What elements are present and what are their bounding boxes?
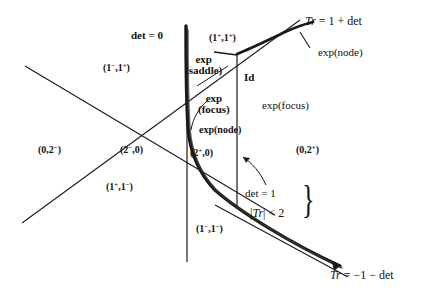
region-label-upper-left: (1−,1+) [103,63,130,74]
diagram-canvas [0,0,428,293]
exp-focus-right-label: exp(focus) [262,100,309,112]
lower-boundary-tr-symbol: Tr [330,268,341,282]
upper-boundary-equation: Tr = 1 + det [305,14,362,29]
region-bottom-center-mid: ,1 [208,223,216,234]
upper-boundary-tr-symbol: Tr [305,14,316,28]
abs-bar-close: | < 2 [263,206,284,220]
region-lower-left-mid: ,1 [118,181,126,192]
region-right-post: ) [316,144,319,155]
region-center-left-post: ) [140,144,143,155]
region-lower-left-post: ) [130,181,133,192]
lower-boundary-equation: Tr = −1 − det [330,268,394,283]
det-zero-label: det = 0 [131,30,163,42]
region-label-right: (0,2+) [296,145,319,156]
region-right-pre: (0,2 [296,144,312,155]
region-label-center-left: (2−,0) [120,145,143,156]
trace-bound-tr-symbol: Tr [252,206,263,220]
region-label-bottom-center: (1−,1−) [196,224,223,235]
region-left-pre: (0,2 [38,144,54,155]
region-center-right-post: ) [210,147,213,158]
region-bottom-center-post: ) [220,223,223,234]
region-left-post: ) [58,144,61,155]
region-upper-left-post: ) [127,62,130,73]
tr-upper-tick-mark [300,32,310,48]
region-label-lower-left: (1+,1−) [106,182,133,193]
trace-determinant-diagram: det = 0 Tr = 1 + det exp(node) (1+,1+) (… [0,0,428,293]
trace-bound-label: |Tr| < 2 [250,206,284,221]
region-center-right-mid: ,0 [202,147,210,158]
region-upper-middle-mid: ,1 [221,32,229,43]
region-label-upper-middle: (1+,1+) [209,33,236,44]
exp-saddle-line2: (saddle) [185,65,222,76]
upper-boundary-equation-rest: = 1 + det [316,14,362,28]
identity-point-label: Id [244,72,254,84]
region-label-left: (0,2−) [38,145,61,156]
region-upper-middle-post: ) [233,32,236,43]
thick-curve-right-branch [237,22,313,54]
exp-focus-label: exp (focus) [198,93,230,115]
exp-focus-line2: (focus) [198,104,230,115]
trace-bound-brace: } [302,180,314,220]
exp-node-center-label: exp(node) [199,125,241,136]
region-upper-left-mid: ,1 [115,62,123,73]
region-label-center-right: (2+,0) [190,148,213,159]
region-center-left-mid: ,0 [132,144,140,155]
exp-node-right-label: exp(node) [318,47,363,59]
exp-saddle-label: exp (saddle) [185,54,222,76]
lower-boundary-equation-rest: = −1 − det [341,268,394,282]
det-one-label: det = 1 [245,188,276,200]
